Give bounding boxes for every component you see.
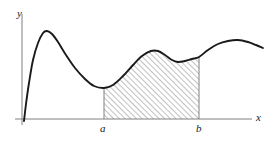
- function-graph-svg: [0, 0, 277, 144]
- bound-label-b: b: [196, 123, 202, 134]
- y-axis-label: y: [17, 8, 22, 19]
- figure-container: y x a b: [0, 0, 277, 144]
- x-axis-label: x: [256, 112, 261, 123]
- bound-label-a: a: [100, 123, 106, 134]
